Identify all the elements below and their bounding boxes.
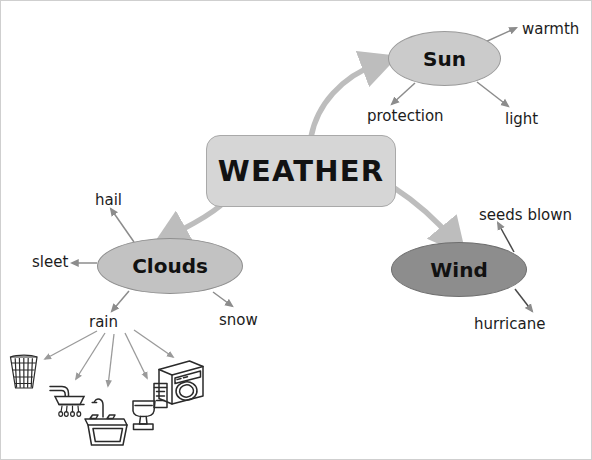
- node-layer: WEATHER Sun Clouds Wind warmth protectio…: [1, 1, 592, 460]
- node-clouds[interactable]: Clouds: [97, 238, 243, 294]
- leaf-protection[interactable]: protection: [367, 107, 444, 125]
- node-sun-label: Sun: [423, 47, 466, 71]
- node-clouds-label: Clouds: [132, 254, 208, 278]
- leaf-hurricane[interactable]: hurricane: [474, 315, 545, 333]
- node-wind-label: Wind: [430, 258, 487, 282]
- node-wind[interactable]: Wind: [391, 242, 527, 297]
- leaf-sleet[interactable]: sleet: [32, 253, 68, 271]
- leaf-snow[interactable]: snow: [219, 311, 258, 329]
- washing-machine-icon[interactable]: [156, 358, 206, 406]
- bucket-icon[interactable]: [7, 352, 41, 392]
- leaf-rain[interactable]: rain: [89, 313, 118, 331]
- leaf-seeds-blown[interactable]: seeds blown: [479, 206, 572, 224]
- node-weather-label: WEATHER: [218, 154, 385, 188]
- leaf-light[interactable]: light: [505, 110, 538, 128]
- node-sun[interactable]: Sun: [388, 31, 501, 86]
- leaf-hail[interactable]: hail: [95, 191, 122, 209]
- concept-map-canvas: WEATHER Sun Clouds Wind warmth protectio…: [0, 0, 592, 460]
- node-weather[interactable]: WEATHER: [206, 135, 396, 207]
- sink-faucet-icon[interactable]: [79, 393, 131, 449]
- leaf-warmth[interactable]: warmth: [522, 20, 579, 38]
